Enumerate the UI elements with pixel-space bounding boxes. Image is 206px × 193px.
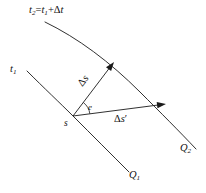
figure-canvas: t2=t1+Δt t1 Δs e s Δs′ Q2 Q1 [0,0,206,193]
label-q1-subscript: 1 [137,174,141,182]
label-t2-equation: t2=t1+Δt [29,5,64,17]
arrowhead-delta-s-prime [157,102,166,108]
label-q1-symbol: Q [129,169,137,180]
label-point-s: s [64,119,68,129]
label-t2-delta-var: t [61,4,64,15]
label-curve-q1: Q1 [129,170,140,182]
label-angle-e: e [88,103,92,112]
label-t1-subscript: 1 [13,68,17,76]
label-delta-s-prime-delta: Δ [114,113,121,124]
diagram-svg [0,0,206,193]
curve-t2-q2 [45,22,196,149]
label-delta-s-prime: Δs′ [114,114,127,125]
label-curve-q2: Q2 [180,143,191,155]
label-delta-s-prime-mark: ′ [125,113,127,124]
label-q2-subscript: 2 [188,147,192,155]
label-q2-symbol: Q [180,142,188,153]
label-t1: t1 [10,64,16,76]
label-t2-delta: Δ [54,4,61,15]
